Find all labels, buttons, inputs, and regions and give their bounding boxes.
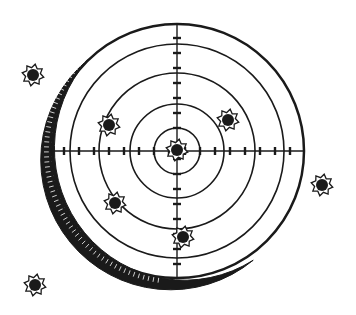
- tick-mark: [173, 248, 181, 250]
- tick-mark: [108, 147, 110, 155]
- tick-mark: [259, 147, 261, 155]
- bullet-hole-icon: [104, 192, 126, 214]
- tick-mark: [214, 147, 216, 155]
- tick-mark: [93, 147, 95, 155]
- tick-mark: [173, 97, 181, 99]
- tick-mark: [289, 147, 291, 155]
- tick-mark: [199, 147, 201, 155]
- tick-mark: [173, 37, 181, 39]
- tick-mark: [78, 147, 80, 155]
- bullet-hole-icon: [311, 174, 333, 196]
- tick-mark: [173, 52, 181, 54]
- tick-mark: [274, 147, 276, 155]
- target-drawing: [0, 0, 356, 315]
- tick-mark: [173, 218, 181, 220]
- tick-mark: [173, 263, 181, 265]
- tick-mark: [173, 203, 181, 205]
- tick-mark: [63, 147, 65, 155]
- tick-mark: [173, 173, 181, 175]
- tick-mark: [244, 147, 246, 155]
- tick-mark: [173, 82, 181, 84]
- tick-mark: [173, 112, 181, 114]
- tick-mark: [123, 147, 125, 155]
- tick-mark: [173, 127, 181, 129]
- bullet-hole-icon: [166, 139, 188, 161]
- tick-mark: [229, 147, 231, 155]
- bullet-hole-icon: [22, 64, 44, 86]
- tick-mark: [173, 188, 181, 190]
- tick-mark: [173, 67, 181, 69]
- bullet-hole-icon: [24, 274, 46, 296]
- tick-mark: [153, 147, 155, 155]
- bullet-hole-icon: [217, 109, 239, 131]
- target-illustration: [0, 0, 356, 315]
- tick-mark: [138, 147, 140, 155]
